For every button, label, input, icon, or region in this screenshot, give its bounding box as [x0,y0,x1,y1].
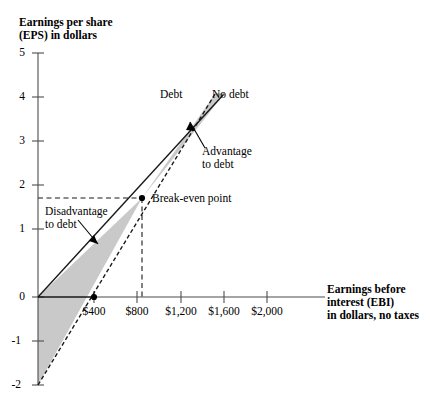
annotation-break-even-point: Break-even point [152,192,232,205]
y-tick-label-4: 4 [7,90,25,103]
y-tick-label-2: 2 [7,178,25,191]
annotation-disadvantage-to-debt: Disadvantage to debt [45,205,108,231]
series-label-debt: Debt [160,88,182,101]
eps-ebi-chart: Earnings per share (EPS) in dollars Earn… [0,0,430,419]
annotation-advantage-to-debt: Advantage to debt [202,145,252,171]
x-axis-title: Earnings before interest (EBI) in dollar… [327,283,419,322]
y-axis-title: Earnings per share (EPS) in dollars [19,16,113,42]
y-tick-label-5: 5 [7,46,25,59]
marker-break-even-point [139,195,145,201]
y-tick-label-3: 3 [7,134,25,147]
y-tick-label-neg2: -2 [3,378,21,391]
x-tick-label-2000: $2,000 [240,305,294,318]
y-tick-label-neg1: -1 [3,334,21,347]
series-line-debt [38,94,215,385]
y-tick-label-0: 0 [7,290,25,303]
series-label-no-debt: No debt [212,88,249,101]
y-tick-label-1: 1 [7,222,25,235]
